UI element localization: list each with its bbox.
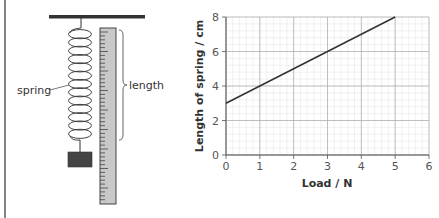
x-tick: 3 [324,160,331,173]
y-tick: 2 [212,115,219,128]
x-tick: 5 [392,160,399,173]
length-brace [119,30,127,140]
x-tick: 2 [290,160,297,173]
y-tick: 8 [212,11,219,24]
y-tick-labels: 02468 [212,11,226,162]
x-tick: 1 [256,160,263,173]
spring-label: spring [17,84,51,97]
weight [68,152,92,167]
x-tick: 6 [426,160,433,173]
x-tick-labels: 0123456 [223,155,433,173]
data-line [226,17,395,103]
x-axis-label: Load / N [302,177,353,190]
y-tick: 6 [212,46,219,59]
y-tick: 0 [212,149,219,162]
length-label: length [129,79,164,92]
x-tick: 4 [358,160,365,173]
y-axis-label: Length of spring / cm [193,20,206,152]
y-tick: 4 [212,80,219,93]
ruler [100,28,116,204]
spring-coil [69,28,92,140]
figure: spring length 0123456 02468 Load / N Len… [0,0,439,218]
line-chart: 0123456 02468 Load / N Length of spring … [193,11,433,190]
support-bar [49,15,145,19]
x-tick: 0 [223,160,230,173]
spring-leader-line [50,85,69,90]
spring-apparatus: spring length [17,15,164,204]
